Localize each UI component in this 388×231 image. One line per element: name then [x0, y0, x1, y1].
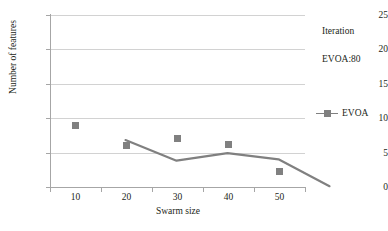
data-point-marker — [123, 142, 130, 149]
x-axis-tick — [305, 188, 306, 192]
y-axis-title: Number of features — [8, 0, 18, 117]
line-chart: 25 20 15 10 5 0 10 20 30 40 50 Swarm siz… — [0, 0, 388, 231]
y-axis-tick — [46, 15, 50, 16]
y-axis-line — [50, 14, 51, 188]
x-axis-label-30: 30 — [158, 192, 198, 203]
chart-legend: EVOA — [316, 108, 368, 118]
x-axis-tick — [254, 188, 255, 192]
iteration-value: EVOA:80 — [322, 54, 361, 64]
x-axis-label-20: 20 — [107, 192, 147, 203]
y-axis-tick — [46, 49, 50, 50]
iteration-heading: Iteration — [322, 26, 354, 36]
x-axis-title: Swarm size — [50, 206, 306, 216]
legend-label-evoa: EVOA — [342, 108, 368, 118]
y-axis-label-25: 25 — [348, 11, 388, 21]
y-axis-tick — [46, 84, 50, 85]
data-point-marker — [276, 168, 283, 175]
x-axis-tick — [152, 188, 153, 192]
y-axis-label-15: 15 — [348, 80, 388, 90]
y-axis-tick — [46, 118, 50, 119]
x-axis-tick — [101, 188, 102, 192]
y-axis-tick — [46, 153, 50, 154]
x-axis-label-50: 50 — [260, 192, 300, 203]
legend-square-icon — [324, 110, 331, 117]
data-point-marker — [174, 135, 181, 142]
y-axis-label-0: 0 — [348, 183, 388, 193]
x-axis-label-10: 10 — [56, 192, 96, 203]
x-axis-tick — [50, 188, 51, 192]
x-axis-line — [50, 187, 306, 188]
y-axis-label-5: 5 — [348, 149, 388, 159]
x-axis-label-40: 40 — [209, 192, 249, 203]
legend-marker-icon — [316, 109, 338, 118]
plot-area — [50, 15, 305, 187]
data-point-marker — [72, 122, 79, 129]
gridline-25 — [50, 15, 305, 16]
data-point-marker — [225, 141, 232, 148]
x-axis-tick — [203, 188, 204, 192]
